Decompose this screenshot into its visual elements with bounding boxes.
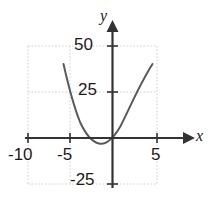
gridlines: [28, 46, 157, 184]
y-axis-label: y: [100, 8, 107, 24]
x-tick-label-neg10: -10: [8, 146, 33, 163]
x-axis-label: x: [196, 128, 203, 144]
y-axis-arrowhead: [107, 20, 119, 32]
y-tick-label-50: 50: [74, 36, 93, 53]
y-axis: [107, 20, 119, 188]
parabola-graph-figure: -10 -5 5 50 25 -25 y x: [0, 0, 219, 210]
x-tick-label-neg5: -5: [57, 146, 72, 163]
parabola-curve: [64, 64, 153, 144]
y-tick-label-25: 25: [78, 81, 97, 98]
x-tick-label-pos5: 5: [151, 146, 160, 163]
y-tick-label-neg25: -25: [70, 171, 95, 188]
x-axis: [25, 132, 195, 144]
x-axis-arrowhead: [183, 132, 195, 144]
graph-canvas: [0, 0, 219, 210]
